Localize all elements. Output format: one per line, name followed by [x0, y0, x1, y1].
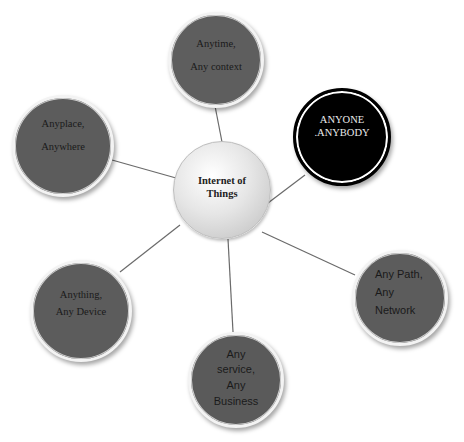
node-anypath: Any Path, Any Network — [352, 250, 448, 346]
node-anyservice-line3: Any — [227, 379, 246, 393]
node-anything-line1: Anything, — [60, 288, 102, 301]
iot-diagram: Anytime, Any context ANYONE .ANYBODY Any… — [0, 0, 464, 442]
node-anyone: ANYONE .ANYBODY — [293, 88, 391, 186]
node-anyservice-line4: Business — [214, 395, 259, 409]
node-anyone-line1: ANYONE — [320, 113, 364, 126]
node-anyservice-line1: Any — [227, 348, 246, 362]
node-anything: Anything, Any Device — [30, 260, 132, 362]
node-anyservice-line2: service, — [217, 363, 255, 377]
node-anyplace-line2: Anywhere — [41, 140, 85, 153]
node-anytime-line2: Any context — [190, 60, 242, 73]
center-line2: Things — [207, 187, 238, 200]
connector-anything — [120, 225, 180, 272]
node-anypath-line2: Any — [375, 286, 394, 300]
connector-anyservice — [228, 239, 233, 332]
connector-anyone — [268, 175, 305, 203]
node-anytime-line1: Anytime, — [196, 37, 235, 50]
node-anypath-line1: Any Path, — [375, 268, 423, 282]
connector-anytime — [215, 106, 222, 142]
node-internet-of-things: Internet of Things — [173, 141, 271, 239]
connector-anypath — [262, 232, 355, 275]
node-anytime: Anytime, Any context — [168, 12, 264, 108]
node-anyone-line2: .ANYBODY — [314, 126, 369, 139]
node-anyservice: Any service, Any Business — [188, 332, 284, 428]
node-anything-line2: Any Device — [56, 305, 106, 318]
connector-anyplace — [112, 160, 176, 178]
node-anyplace-line1: Anyplace, — [42, 117, 85, 130]
node-anypath-line3: Network — [375, 304, 415, 318]
node-anyplace: Anyplace, Anywhere — [12, 95, 114, 197]
center-line1: Internet of — [198, 174, 246, 187]
